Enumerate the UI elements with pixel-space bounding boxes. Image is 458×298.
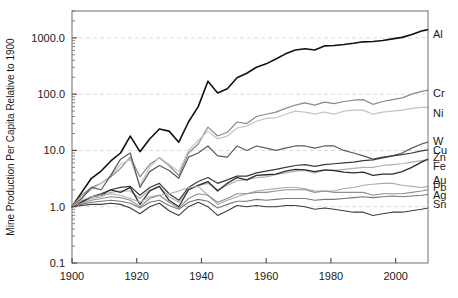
x-tick-label: 1920 xyxy=(124,270,148,282)
x-tick-label: 2000 xyxy=(383,270,407,282)
series-label-fe: Fe xyxy=(433,160,446,172)
y-tick-label: 10.0 xyxy=(44,144,65,156)
x-tick-label: 1900 xyxy=(60,270,84,282)
chart-figure: 190019201940196019802000 0.11.010.0100.0… xyxy=(0,0,458,298)
y-tick-label: 100.0 xyxy=(37,88,65,100)
mine-production-line-chart: 190019201940196019802000 0.11.010.0100.0… xyxy=(0,0,458,298)
chart-background xyxy=(0,0,458,298)
y-axis-title: Mine Production Per Capita Relative to 1… xyxy=(5,38,16,236)
y-tick-label: 1000.0 xyxy=(31,32,65,44)
series-label-ni: Ni xyxy=(433,107,443,119)
x-tick-label: 1960 xyxy=(254,270,278,282)
y-tick-label: 0.1 xyxy=(50,257,65,269)
x-tick-label: 1980 xyxy=(319,270,343,282)
series-label-sn: Sn xyxy=(433,198,446,210)
x-tick-label: 1940 xyxy=(189,270,213,282)
series-label-cr: Cr xyxy=(433,87,445,99)
series-label-al: Al xyxy=(433,28,443,40)
y-tick-label: 1.0 xyxy=(50,201,65,213)
